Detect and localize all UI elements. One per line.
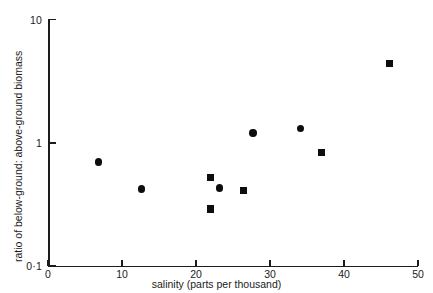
data-point-square	[318, 149, 325, 156]
y-tick-mark	[50, 265, 56, 267]
data-point-circle	[138, 185, 145, 192]
y-tick-mark	[50, 142, 56, 144]
data-point-circle	[249, 129, 256, 136]
y-tick-label: 10	[2, 15, 42, 26]
x-tick-label: 50	[401, 269, 433, 280]
data-point-square	[386, 60, 393, 67]
data-point-square	[207, 174, 214, 181]
scatter-plot-figure: 0·1110 01020304050 salinity (parts per t…	[0, 0, 433, 293]
x-tick-mark	[47, 260, 49, 266]
data-point-square	[207, 205, 214, 212]
y-axis-title: ratio of below-ground: above-ground biom…	[13, 51, 24, 262]
x-tick-mark	[121, 260, 123, 266]
x-tick-label: 0	[31, 269, 65, 280]
y-tick-mark	[50, 19, 56, 21]
data-point-circle	[297, 125, 304, 132]
x-tick-label: 40	[327, 269, 361, 280]
data-point-circle	[95, 158, 102, 165]
data-point-square	[240, 187, 247, 194]
x-axis-spine	[48, 266, 418, 268]
x-tick-label: 10	[105, 269, 139, 280]
x-tick-mark	[417, 260, 419, 266]
x-tick-mark	[269, 260, 271, 266]
x-axis-title: salinity (parts per thousand)	[0, 279, 433, 290]
x-tick-mark	[343, 260, 345, 266]
x-tick-mark	[195, 260, 197, 266]
data-point-circle	[216, 184, 223, 191]
